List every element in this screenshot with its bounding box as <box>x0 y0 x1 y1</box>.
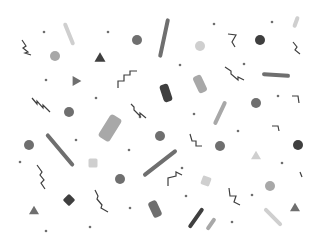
confetti-dot <box>213 23 216 26</box>
confetti-dot <box>75 139 78 142</box>
confetti-circle <box>293 140 303 150</box>
confetti-dot <box>237 130 240 133</box>
confetti-dot <box>43 31 46 34</box>
background <box>0 0 321 247</box>
confetti-circle <box>115 174 125 184</box>
confetti-dot <box>128 149 131 152</box>
confetti-pattern <box>0 0 321 247</box>
confetti-dot <box>271 21 274 24</box>
confetti-circle <box>132 35 142 45</box>
confetti-dot <box>193 113 196 116</box>
confetti-circle <box>265 181 275 191</box>
confetti-dot <box>281 162 284 165</box>
confetti-dot <box>89 226 92 229</box>
confetti-dot <box>19 161 22 164</box>
confetti-dot <box>45 230 48 233</box>
confetti-dot <box>277 95 280 98</box>
confetti-circle <box>255 35 265 45</box>
confetti-dot <box>179 64 182 67</box>
confetti-circle <box>155 131 165 141</box>
confetti-dot <box>95 97 98 100</box>
confetti-circle <box>50 51 60 61</box>
confetti-circle <box>195 41 205 51</box>
confetti-square <box>89 159 98 168</box>
confetti-dot <box>107 31 110 34</box>
confetti-dot <box>185 195 188 198</box>
confetti-dot <box>231 221 234 224</box>
confetti-dot <box>251 194 254 197</box>
confetti-dot <box>129 207 132 210</box>
confetti-dot <box>181 167 184 170</box>
confetti-dot <box>45 79 48 82</box>
confetti-circle <box>24 140 34 150</box>
confetti-circle <box>64 107 74 117</box>
confetti-circle <box>215 141 225 151</box>
confetti-circle <box>251 98 261 108</box>
confetti-dot <box>243 63 246 66</box>
